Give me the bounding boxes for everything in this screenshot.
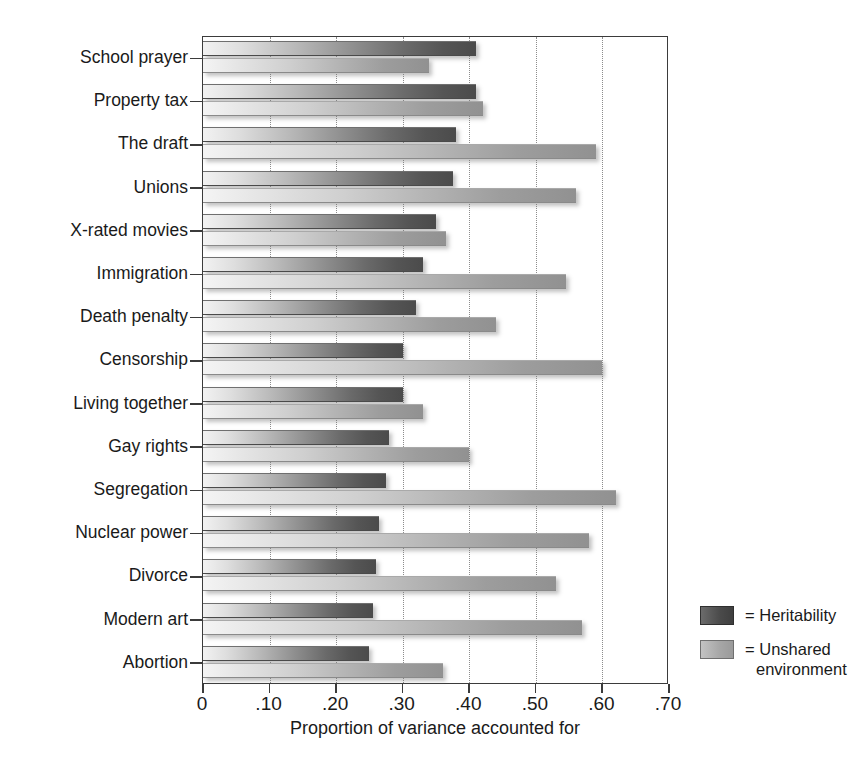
category-label: Property tax [94,79,188,122]
bar-row [203,642,667,685]
category-label: Unions [134,166,188,209]
legend-label-line2: environment [756,659,847,679]
category-label: Immigration [97,252,188,295]
category-tick [190,446,202,448]
bar-heritability [203,387,403,402]
bar-row [203,426,667,469]
x-axis-title: Proportion of variance accounted for [202,718,668,739]
category-axis-labels: School prayerProperty taxThe draftUnions… [0,36,202,684]
category-label: Gay rights [108,425,188,468]
bar-heritability [203,646,369,661]
bar-row [203,80,667,123]
bar-row [203,210,667,253]
category-label: Modern art [103,598,188,641]
bar-unshared-environment [203,533,589,548]
category-tick [190,619,202,621]
bar-heritability [203,300,416,315]
category-label: School prayer [80,36,188,79]
bar-rows [203,37,667,683]
legend-swatch-heritability [700,606,734,625]
bar-unshared-environment [203,188,576,203]
category-label: The draft [118,122,188,165]
bar-row [203,339,667,382]
category-tick [190,230,202,232]
value-tick-label: .50 [522,693,548,715]
category-tick [190,187,202,189]
value-tick-label: .60 [588,693,614,715]
bar-unshared-environment [203,576,556,591]
bar-heritability [203,171,453,186]
bar-chart-figure: School prayerProperty taxThe draftUnions… [0,0,860,763]
category-axis-ticks [190,36,202,684]
category-tick [190,403,202,405]
bar-unshared-environment [203,317,496,332]
bar-unshared-environment [203,360,602,375]
category-label: Living together [73,382,188,425]
bar-heritability [203,559,376,574]
category-label: Censorship [99,338,188,381]
bar-unshared-environment [203,447,469,462]
bar-unshared-environment [203,144,596,159]
value-tick [202,684,204,693]
value-tick-label: .20 [322,693,348,715]
category-label: Segregation [94,468,188,511]
category-tick [190,533,202,535]
bar-heritability [203,343,403,358]
category-tick [190,490,202,492]
plot-area [202,36,668,684]
value-tick [535,684,537,693]
value-tick-label: .70 [655,693,681,715]
category-label: Divorce [129,554,188,597]
bar-unshared-environment [203,231,446,246]
legend-label-heritability: = Heritability [745,605,836,625]
value-tick [601,684,603,693]
value-tick [668,684,670,693]
value-tick [269,684,271,693]
category-tick [190,662,202,664]
value-tick-label: .10 [255,693,281,715]
legend-item-unshared-environment: = Unsharedenvironment [700,639,860,679]
value-tick-label: 0 [197,693,208,715]
legend: = Heritability = Unsharedenvironment [700,605,860,693]
category-tick [190,144,202,146]
bar-row [203,469,667,512]
bar-unshared-environment [203,620,582,635]
bar-unshared-environment [203,404,423,419]
category-label: X-rated movies [70,209,188,252]
value-tick [335,684,337,693]
category-tick [190,317,202,319]
bar-row [203,37,667,80]
value-tick [402,684,404,693]
bar-heritability [203,516,379,531]
bar-row [203,253,667,296]
bar-heritability [203,430,389,445]
category-tick [190,360,202,362]
bar-heritability [203,473,386,488]
bar-heritability [203,214,436,229]
bar-unshared-environment [203,274,566,289]
bar-row [203,296,667,339]
bar-heritability [203,603,373,618]
bar-row [203,599,667,642]
category-tick [190,274,202,276]
value-axis-ticks [202,684,668,693]
bar-unshared-environment [203,58,429,73]
value-tick-label: .30 [388,693,414,715]
legend-label-unshared-environment: = Unsharedenvironment [745,639,847,679]
bar-heritability [203,41,476,56]
value-tick [468,684,470,693]
bar-heritability [203,257,423,272]
bar-row [203,167,667,210]
category-label: Nuclear power [75,511,188,554]
bar-heritability [203,84,476,99]
legend-item-heritability: = Heritability [700,605,860,625]
bar-unshared-environment [203,490,616,505]
bar-row [203,512,667,555]
category-tick [190,58,202,60]
category-tick [190,576,202,578]
bar-unshared-environment [203,101,483,116]
bar-heritability [203,127,456,142]
legend-swatch-unshared-environment [700,640,734,659]
legend-label-line1: = Unshared [745,640,831,658]
bar-unshared-environment [203,663,443,678]
